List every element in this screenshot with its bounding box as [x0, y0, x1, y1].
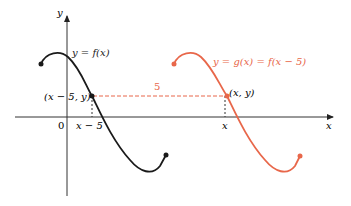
g-start-point — [172, 62, 177, 67]
f-equation: y = f(x) — [72, 48, 110, 58]
shift-amount-label: 5 — [154, 82, 160, 92]
g-curve — [174, 53, 300, 172]
y-axis-label: y — [57, 8, 63, 18]
g-end-point — [298, 154, 303, 159]
tick-f-label: x − 5 — [76, 121, 103, 131]
f-curve — [41, 53, 166, 172]
origin-label: 0 — [58, 121, 64, 131]
f-start-point — [39, 62, 44, 67]
diagram-graphics — [0, 0, 351, 206]
f-end-point — [164, 153, 169, 158]
point-f-label: (x − 5, y) — [44, 92, 91, 102]
g-equation: y = g(x) = f(x − 5) — [213, 57, 306, 67]
point-g-label: (x, y) — [229, 88, 254, 98]
tick-g-label: x — [222, 121, 228, 131]
x-axis-label: x — [326, 121, 332, 131]
shift-diagram: y x 0 y = f(x) y = g(x) = f(x − 5) (x − … — [0, 0, 351, 206]
